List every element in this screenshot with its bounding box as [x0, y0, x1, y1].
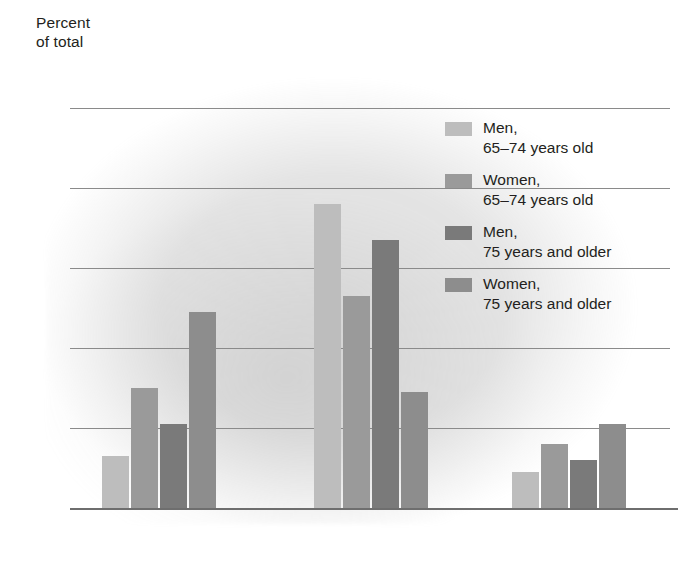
legend-label-women-75plus: Women,75 years and older [483, 274, 611, 314]
x-axis-baseline [70, 508, 678, 510]
y-axis-title: Percent of total [36, 13, 90, 51]
chart-legend: Men,65–74 years old Women,65–74 years ol… [445, 118, 611, 314]
legend-item-women-65-74[interactable]: Women,65–74 years old [445, 170, 611, 210]
legend-label-men-75plus-line1: Men, [483, 223, 517, 240]
legend-label-women-65-74: Women,65–74 years old [483, 170, 593, 210]
legend-item-men-65-74[interactable]: Men,65–74 years old [445, 118, 611, 158]
legend-label-men-65-74-line1: Men, [483, 119, 517, 136]
legend-label-men-75plus: Men,75 years and older [483, 222, 611, 262]
legend-swatch-icon-men-75plus [445, 226, 472, 240]
bar-with-spouse-women-75plus[interactable] [401, 392, 428, 508]
legend-label-women-75plus-line2: 75 years and older [483, 295, 611, 312]
legend-item-men-75plus[interactable]: Men,75 years and older [445, 222, 611, 262]
legend-label-women-65-74-line1: Women, [483, 171, 540, 188]
bar-living-alone-women-75plus[interactable] [189, 312, 216, 508]
bar-living-alone-women-65-74[interactable] [131, 388, 158, 508]
legend-swatch-icon-women-65-74 [445, 174, 472, 188]
bar-with-spouse-men-65-74[interactable] [314, 204, 341, 508]
bar-living-alone-men-75plus[interactable] [160, 424, 187, 508]
legend-label-men-65-74: Men,65–74 years old [483, 118, 593, 158]
y-axis-title-line2: of total [36, 32, 90, 51]
bar-chart-figure: Percent of total 100 80 60 40 20 0 [0, 0, 700, 569]
legend-swatch-icon-women-75plus [445, 278, 472, 292]
legend-label-men-65-74-line2: 65–74 years old [483, 139, 593, 156]
bar-neither-men-65-74[interactable] [512, 472, 539, 508]
legend-item-women-75plus[interactable]: Women,75 years and older [445, 274, 611, 314]
bar-with-spouse-men-75plus[interactable] [372, 240, 399, 508]
gridline-100 [70, 108, 670, 109]
legend-swatch-icon-men-65-74 [445, 122, 472, 136]
y-axis-title-line1: Percent [36, 13, 90, 32]
bar-neither-women-65-74[interactable] [541, 444, 568, 508]
legend-label-women-65-74-line2: 65–74 years old [483, 191, 593, 208]
legend-label-men-75plus-line2: 75 years and older [483, 243, 611, 260]
legend-label-women-75plus-line1: Women, [483, 275, 540, 292]
bar-living-alone-men-65-74[interactable] [102, 456, 129, 508]
bar-neither-men-75plus[interactable] [570, 460, 597, 508]
bar-neither-women-75plus[interactable] [599, 424, 626, 508]
bar-with-spouse-women-65-74[interactable] [343, 296, 370, 508]
gridline-40 [70, 348, 670, 349]
